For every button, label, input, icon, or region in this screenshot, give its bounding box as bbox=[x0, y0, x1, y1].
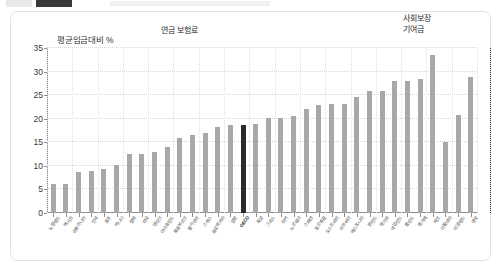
x-axis-label-터키: 터키 bbox=[279, 215, 288, 225]
x-axis-label-뉴질랜드: 뉴질랜드 bbox=[47, 215, 61, 231]
annotation-social-line1: 사회보장 bbox=[403, 14, 431, 25]
bar-오스트리아 bbox=[329, 104, 334, 213]
y-tick-label-15: 15 bbox=[34, 137, 43, 147]
y-tick-label-5: 5 bbox=[38, 184, 43, 194]
chart-figure: 평균임금대비 % 05101520253035 뉴질랜드멕시코리투아니아한국호주… bbox=[11, 12, 492, 262]
x-axis-label-벨기에: 벨기에 bbox=[416, 215, 428, 228]
bar-불가리아 bbox=[190, 135, 195, 213]
bar-영국 bbox=[468, 77, 473, 213]
plot-area: 05101520253035 bbox=[47, 48, 477, 213]
y-tick-label-20: 20 bbox=[34, 114, 43, 124]
bar-OECD bbox=[241, 125, 246, 213]
annotation-pension-contribution: 연금 보험료 bbox=[161, 26, 198, 37]
x-axis-label-노르웨이: 노르웨이 bbox=[288, 215, 302, 231]
x-axis-label-체코: 체코 bbox=[431, 215, 440, 225]
bar-스페인 bbox=[304, 109, 309, 213]
bar-일본 bbox=[228, 125, 233, 213]
bar-아이슬란드 bbox=[165, 147, 170, 213]
x-axis-label-일본: 일본 bbox=[229, 215, 238, 225]
x-axis-label-멕시코: 멕시코 bbox=[62, 215, 74, 228]
bar-라트비아 bbox=[342, 104, 347, 213]
x-axis-label-이탈리아: 이탈리아 bbox=[439, 215, 453, 231]
bar-아일랜드 bbox=[456, 115, 461, 213]
bar-포르투갈 bbox=[316, 105, 321, 213]
bar-캐나다 bbox=[114, 165, 119, 213]
bar-핀란드 bbox=[367, 91, 372, 213]
bar-한국 bbox=[89, 171, 94, 213]
bar-뉴질랜드 bbox=[51, 184, 56, 213]
bar-체코 bbox=[430, 55, 435, 213]
scan-artifact-faint bbox=[110, 1, 270, 6]
bar-덴마크 bbox=[152, 152, 157, 213]
x-axis-label-독일: 독일 bbox=[254, 215, 263, 225]
scan-artifact-dark bbox=[36, 0, 72, 7]
bar-멕시코 bbox=[63, 184, 68, 213]
annotation-social-security: 사회보장 기여금 bbox=[403, 14, 431, 36]
y-tick-label-35: 35 bbox=[34, 43, 43, 53]
x-axis-label-스위스: 스위스 bbox=[201, 215, 213, 228]
y-axis-title: 평균임금대비 % bbox=[57, 33, 113, 45]
bar-독일 bbox=[253, 124, 258, 213]
x-axis-label-스페인: 스페인 bbox=[303, 215, 315, 228]
y-tick-label-25: 25 bbox=[34, 90, 43, 100]
bar-룩셈부르크 bbox=[177, 138, 182, 213]
x-axis-label-아일랜드: 아일랜드 bbox=[452, 215, 466, 231]
bar-폴란드 bbox=[405, 81, 410, 213]
vertical-gridline-34 bbox=[477, 48, 478, 213]
x-axis-label-한국: 한국 bbox=[90, 215, 99, 225]
bar-호주 bbox=[101, 169, 106, 213]
bar-에스토니아 bbox=[354, 97, 359, 213]
x-axis-label-미국: 미국 bbox=[140, 215, 149, 225]
chart-card: 평균임금대비 % 05101520253035 뉴질랜드멕시코리투아니아한국호주… bbox=[10, 11, 491, 261]
x-axis-label-헝가리: 헝가리 bbox=[378, 215, 390, 228]
bar-벨기에 bbox=[418, 79, 423, 213]
section-divider bbox=[490, 48, 491, 213]
bar-노르웨이 bbox=[291, 116, 296, 213]
bar-슬로바키아 bbox=[215, 127, 220, 213]
scan-artifact-light bbox=[6, 0, 32, 7]
bar-스위스 bbox=[203, 133, 208, 213]
bar-그리스 bbox=[266, 118, 271, 213]
bar-미국 bbox=[139, 154, 144, 213]
x-axis-label-영국: 영국 bbox=[469, 215, 478, 225]
x-axis-label-캐나다: 캐나다 bbox=[113, 215, 125, 228]
y-tick-label-10: 10 bbox=[34, 161, 43, 171]
bar-네덜란드 bbox=[392, 81, 397, 213]
x-axis-label-그리스: 그리스 bbox=[265, 215, 277, 228]
bar-리투아니아 bbox=[76, 172, 81, 213]
x-axis-label-호주: 호주 bbox=[102, 215, 111, 225]
y-tick-mark-0 bbox=[44, 213, 47, 214]
bars-layer bbox=[47, 48, 477, 213]
x-axis-label-핀란드: 핀란드 bbox=[366, 215, 378, 228]
x-axis-label-폴란드: 폴란드 bbox=[404, 215, 416, 228]
bar-헝가리 bbox=[380, 91, 385, 213]
bar-이탈리아 bbox=[443, 142, 448, 213]
bar-터키 bbox=[278, 118, 283, 213]
y-tick-label-30: 30 bbox=[34, 67, 43, 77]
annotation-social-line2: 기여금 bbox=[403, 25, 431, 36]
x-axis-labels: 뉴질랜드멕시코리투아니아한국호주캐나다칠레미국덴마크아이슬란드룩셈부르크불가리아… bbox=[47, 215, 477, 261]
bar-칠레 bbox=[127, 154, 132, 213]
x-axis-label-네덜란드: 네덜란드 bbox=[389, 215, 403, 231]
x-axis-label-칠레: 칠레 bbox=[128, 215, 137, 225]
y-tick-label-0: 0 bbox=[38, 208, 43, 218]
x-axis-label-OECD: OECD bbox=[239, 215, 250, 228]
